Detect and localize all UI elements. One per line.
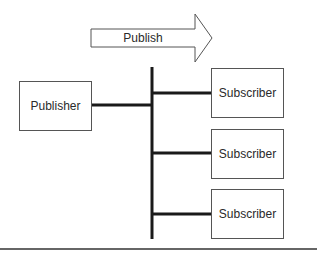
publish-arrow-label: Publish bbox=[91, 29, 195, 47]
subscriber-label-3: Subscriber bbox=[211, 189, 284, 239]
subscriber-label-2: Subscriber bbox=[211, 129, 284, 179]
subscriber-label-1: Subscriber bbox=[211, 68, 284, 118]
publisher-label: Publisher bbox=[19, 81, 92, 131]
